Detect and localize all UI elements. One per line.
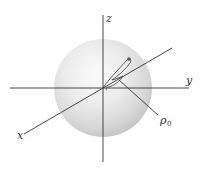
rho-label: ρ [159, 114, 167, 127]
z-axis-label: z [105, 12, 112, 25]
rho-subscript: 0 [167, 120, 171, 128]
y-axis-label: y [185, 74, 193, 87]
x-axis-label: x [17, 129, 24, 142]
sphere-axes-diagram: z y x ρ 0 [0, 0, 207, 175]
charge-point [127, 57, 131, 61]
